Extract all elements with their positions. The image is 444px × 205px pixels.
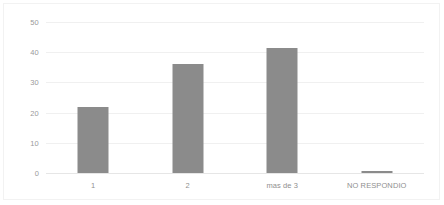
bar-slot: 2 (141, 22, 236, 173)
y-axis-tick-label: 40 (30, 48, 39, 57)
y-axis-tick-label: 10 (30, 138, 39, 147)
x-axis-tick-label: NO RESPONDIO (347, 181, 407, 190)
y-axis-tick-label: 50 (30, 18, 39, 27)
bar-category-1[interactable] (78, 107, 109, 173)
bar-category-2[interactable] (172, 64, 203, 173)
x-axis-tick-label: 2 (186, 181, 190, 190)
x-axis-tick-label: 1 (91, 181, 95, 190)
bar-group: 1 2 mas de 3 NO RESPONDIO (46, 22, 424, 173)
plot-area: 50 40 30 20 10 0 1 2 (46, 22, 424, 173)
bar-slot: mas de 3 (235, 22, 330, 173)
gridline-0-baseline: 0 (46, 173, 424, 174)
y-axis-tick-label: 0 (35, 169, 39, 178)
x-axis-tick-label: mas de 3 (266, 181, 298, 190)
bar-chart: 50 40 30 20 10 0 1 2 (0, 0, 444, 205)
y-axis-tick-label: 30 (30, 78, 39, 87)
y-axis-tick-label: 20 (30, 108, 39, 117)
bar-slot: 1 (46, 22, 141, 173)
bar-slot: NO RESPONDIO (330, 22, 425, 173)
bar-category-mas-de-3[interactable] (267, 48, 298, 173)
bar-category-no-respondio[interactable] (361, 171, 392, 173)
